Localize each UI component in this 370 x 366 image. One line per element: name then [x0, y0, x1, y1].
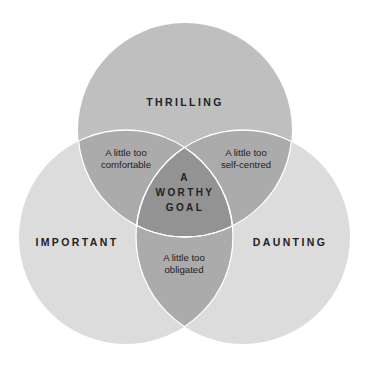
region-label-line: self-centred: [221, 159, 271, 171]
set-label-thrilling: THRILLING: [146, 96, 224, 108]
region-label-obligated: A little too obligated: [163, 252, 205, 276]
region-label-line: A little too: [221, 147, 271, 159]
region-label-line: A little too: [163, 252, 205, 264]
center-label-line: GOAL: [156, 200, 215, 215]
region-label-self-centred: A little too self-centred: [221, 147, 271, 171]
region-label-line: comfortable: [101, 159, 151, 171]
center-label-line: WORTHY: [156, 185, 215, 200]
set-label-daunting: DAUNTING: [253, 236, 328, 248]
region-label-line: obligated: [163, 264, 205, 276]
center-label-worthy-goal: A WORTHY GOAL: [156, 170, 215, 215]
region-label-comfortable: A little too comfortable: [101, 147, 151, 171]
set-label-important: IMPORTANT: [35, 236, 118, 248]
center-label-line: A: [156, 170, 215, 185]
region-label-line: A little too: [101, 147, 151, 159]
